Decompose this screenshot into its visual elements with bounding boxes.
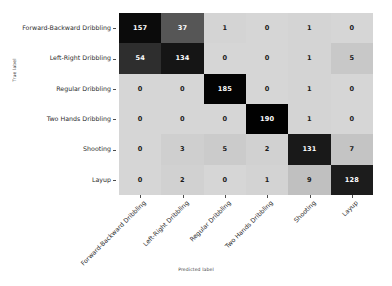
matrix-cell-value: 0 [222, 54, 227, 62]
matrix-cell: 0 [331, 74, 373, 104]
x-tick-mark [225, 195, 226, 198]
x-tick-label: Regular Dribbling [188, 199, 232, 243]
matrix-cell: 0 [331, 104, 373, 134]
matrix-cell-value: 1 [307, 54, 312, 62]
matrix-cell: 1 [288, 13, 330, 43]
y-tick-mark [113, 28, 116, 29]
matrix-cell: 2 [246, 134, 288, 164]
y-tick-label: Left-Right Dribbling [50, 43, 111, 73]
matrix-cell: 134 [161, 43, 203, 73]
matrix-cell: 0 [161, 74, 203, 104]
matrix-cell-value: 157 [133, 24, 147, 32]
matrix-cell: 9 [288, 165, 330, 195]
matrix-cell-value: 1 [222, 24, 227, 32]
x-axis-title: Predicted label [0, 267, 392, 272]
matrix-cell: 0 [204, 43, 246, 73]
matrix-cell-value: 0 [180, 85, 185, 93]
matrix-cell: 0 [161, 104, 203, 134]
confusion-matrix-grid: 1573710105413400150018501000019010035213… [119, 13, 373, 195]
x-tick-mark [352, 195, 353, 198]
matrix-cell: 131 [288, 134, 330, 164]
matrix-cell-value: 0 [349, 115, 354, 123]
x-tick-mark [310, 195, 311, 198]
matrix-cell: 0 [119, 104, 161, 134]
matrix-cell-value: 0 [265, 85, 270, 93]
matrix-cell-value: 0 [349, 24, 354, 32]
matrix-cell-value: 1 [307, 24, 312, 32]
matrix-cell: 157 [119, 13, 161, 43]
matrix-cell-value: 0 [138, 145, 143, 153]
matrix-cell-value: 0 [265, 54, 270, 62]
matrix-cell-value: 1 [307, 115, 312, 123]
y-tick-label: Layup [92, 165, 111, 195]
matrix-cell: 0 [246, 43, 288, 73]
y-tick-label: Forward-Backward Dribbling [22, 13, 111, 43]
x-tick-mark [183, 195, 184, 198]
matrix-cell-value: 0 [138, 115, 143, 123]
y-tick-mark [113, 180, 116, 181]
matrix-cell: 1 [204, 13, 246, 43]
matrix-cell-value: 0 [180, 115, 185, 123]
matrix-cell: 1 [288, 43, 330, 73]
x-tick-mark [267, 195, 268, 198]
matrix-cell-value: 190 [260, 115, 274, 123]
matrix-cell: 0 [246, 74, 288, 104]
matrix-cell: 3 [161, 134, 203, 164]
x-tick-label: Two Hands Dribbling [224, 199, 274, 249]
y-tick-mark [113, 89, 116, 90]
x-tick-label: Shooting [292, 199, 317, 224]
matrix-cell: 185 [204, 74, 246, 104]
y-tick-label: Two Hands Dribbling [47, 104, 111, 134]
matrix-cell-value: 0 [265, 24, 270, 32]
matrix-cell-value: 54 [135, 54, 144, 62]
y-tick-mark [113, 59, 116, 60]
matrix-cell-value: 134 [175, 54, 189, 62]
matrix-cell: 0 [119, 134, 161, 164]
matrix-cell: 5 [331, 43, 373, 73]
matrix-cell-value: 9 [307, 176, 312, 184]
matrix-cell-value: 0 [349, 85, 354, 93]
matrix-cell: 2 [161, 165, 203, 195]
matrix-cell-value: 128 [345, 176, 359, 184]
matrix-cell: 1 [288, 74, 330, 104]
matrix-cell: 7 [331, 134, 373, 164]
matrix-cell: 0 [204, 104, 246, 134]
matrix-cell: 37 [161, 13, 203, 43]
matrix-cell-value: 37 [178, 24, 187, 32]
matrix-cell: 0 [119, 74, 161, 104]
matrix-cell-value: 0 [138, 85, 143, 93]
matrix-cell-value: 131 [302, 145, 316, 153]
matrix-cell-value: 3 [180, 145, 185, 153]
x-tick-label: Left-Right Dribbling [141, 199, 189, 247]
matrix-cell-value: 0 [222, 176, 227, 184]
matrix-cell: 1 [288, 104, 330, 134]
x-tick-mark [140, 195, 141, 198]
matrix-cell-value: 0 [222, 115, 227, 123]
x-axis-tick-labels: Forward-Backward DribblingLeft-Right Dri… [119, 199, 373, 269]
matrix-cell: 0 [331, 13, 373, 43]
confusion-matrix-figure: True label Forward-Backward DribblingLef… [0, 0, 392, 286]
matrix-cell-value: 1 [307, 85, 312, 93]
matrix-cell: 1 [246, 165, 288, 195]
y-axis-tick-labels: Forward-Backward DribblingLeft-Right Dri… [0, 13, 116, 195]
matrix-cell-value: 2 [265, 145, 270, 153]
matrix-cell: 0 [204, 165, 246, 195]
matrix-cell-value: 2 [180, 176, 185, 184]
matrix-cell: 0 [119, 165, 161, 195]
matrix-cell-value: 0 [138, 176, 143, 184]
matrix-cell-value: 5 [349, 54, 354, 62]
matrix-cell: 190 [246, 104, 288, 134]
matrix-cell: 0 [246, 13, 288, 43]
x-tick-label: Forward-Backward Dribbling [79, 199, 147, 267]
matrix-cell-value: 185 [218, 85, 232, 93]
matrix-cell: 128 [331, 165, 373, 195]
x-tick-label: Layup [340, 199, 358, 217]
y-tick-label: Regular Dribbling [56, 74, 111, 104]
y-tick-label: Shooting [83, 134, 111, 164]
matrix-cell-value: 7 [349, 145, 354, 153]
matrix-cell-value: 1 [265, 176, 270, 184]
y-tick-mark [113, 119, 116, 120]
matrix-cell: 54 [119, 43, 161, 73]
matrix-cell-value: 5 [222, 145, 227, 153]
matrix-cell: 5 [204, 134, 246, 164]
